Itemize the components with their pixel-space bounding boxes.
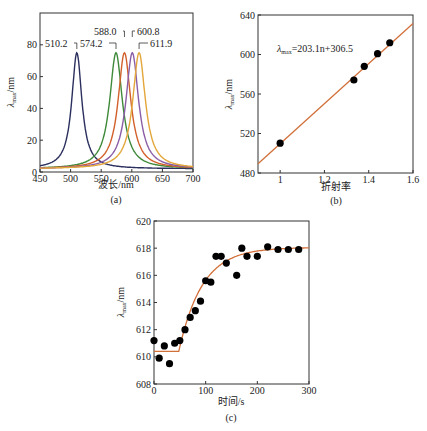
y-tick-label: 614 [136,297,151,308]
x-tick-label: 0 [152,385,157,396]
data-point [295,246,302,253]
panel-b-equation: λmax=203.1n+306.5 [276,43,353,55]
panel-b-ticks: 11.21.41.6480520560600640 [240,10,419,186]
panel-c-ylabel: λmax/nm [115,287,127,318]
data-point [243,253,250,260]
x-tick-label: 500 [63,173,78,184]
data-point [161,342,168,349]
y-tick-label: 560 [240,89,255,100]
peak-leader-line [139,43,148,49]
peak-label-510.2: 510.2 [45,38,68,49]
data-point [223,260,230,267]
data-point [187,314,194,321]
data-point [277,140,284,147]
y-tick-label: 620 [136,216,151,227]
y-tick-label: 612 [136,324,151,335]
peak-leader-line [74,43,77,49]
data-point [176,337,183,344]
peak-label-600.8: 600.8 [137,26,160,37]
x-tick-label: 200 [250,385,265,396]
panel-c-caption: (c) [225,412,236,424]
panel-a-peak-annotations: 510.2574.2588.0600.8611.9 [45,26,172,49]
y-tick-label: 480 [240,168,255,179]
peak-label-588.0: 588.0 [94,26,117,37]
peak-label-611.9: 611.9 [150,38,172,49]
y-tick-label: 640 [240,10,255,21]
peak-leader-line [109,43,116,49]
data-point [264,243,271,250]
y-tick-label: 600 [240,49,255,60]
panel-c-frame [154,221,309,384]
data-point [218,253,225,260]
peak-label-574.2: 574.2 [80,38,103,49]
data-point [233,272,240,279]
data-point [192,307,199,314]
data-point [386,39,393,46]
data-point [156,355,163,362]
panel-a-curves [40,53,193,169]
data-point [181,326,188,333]
y-tick-label: 0 [32,167,37,178]
y-tick-label: 610 [136,351,151,362]
panel-c-time-series: 0100200300608610612614616618620 时间/s (c)… [115,216,317,425]
data-point [150,337,157,344]
figure: 450500550600650700020406080 510.2574.258… [0,0,427,431]
data-point [274,246,281,253]
panel-a-caption: (a) [110,194,121,206]
y-tick-label: 20 [27,135,37,146]
x-tick-label: 1.6 [407,174,420,185]
panel-a-spectra: 450500550600650700020406080 510.2574.258… [5,13,201,206]
panel-a-ylabel: λmax/nm [5,77,17,108]
data-point [285,246,292,253]
peak-leader-line [132,31,135,37]
x-tick-label: 1 [278,174,283,185]
data-point [197,298,204,305]
data-point [254,253,261,260]
peak-leader-line [123,31,124,37]
panel-b-caption: (b) [330,195,342,207]
panel-c-xlabel: 时间/s [218,395,245,407]
fit-curve [154,248,309,352]
x-tick-label: 100 [198,385,213,396]
y-tick-label: 608 [136,379,151,390]
data-point [374,50,381,57]
x-tick-label: 1.4 [362,174,375,185]
y-tick-label: 80 [27,39,37,50]
data-point [238,245,245,252]
y-tick-label: 40 [27,103,37,114]
y-tick-label: 616 [136,270,151,281]
panel-c-plot [150,243,309,367]
panel-b-ylabel: λmax/nm [223,79,235,110]
panel-b-xlabel: 折射率 [321,180,351,192]
x-tick-label: 650 [155,173,170,184]
data-point [350,76,357,83]
panel-a-xlabel: 波长/nm [98,178,134,190]
y-tick-label: 520 [240,128,255,139]
x-tick-label: 700 [186,173,201,184]
y-tick-label: 60 [27,71,37,82]
panel-c-ticks: 0100200300608610612614616618620 [136,216,317,397]
panel-b-refractive-index: 11.21.41.6480520560600640 λmax=203.1n+30… [223,10,419,208]
x-tick-label: 300 [302,385,317,396]
y-tick-label: 618 [136,243,151,254]
data-point [207,279,214,286]
data-point [166,360,173,367]
data-point [361,63,368,70]
